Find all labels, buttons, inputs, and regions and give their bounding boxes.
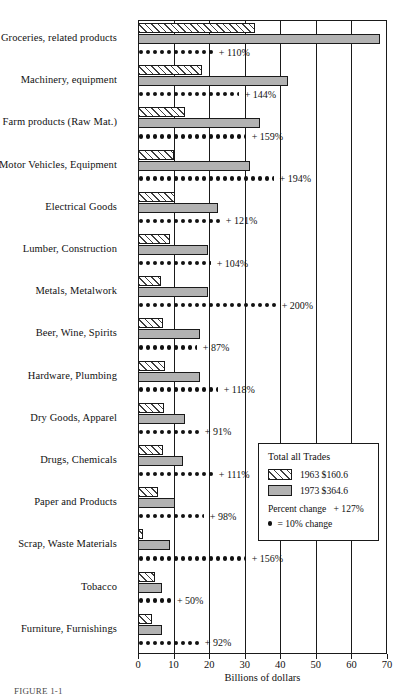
bar-1973 <box>138 540 170 550</box>
change-dot-icon <box>181 176 185 180</box>
change-dot-icon <box>181 387 185 391</box>
bar-1963 <box>138 23 255 33</box>
change-dot-icon <box>139 556 143 560</box>
bar-1963 <box>138 234 170 244</box>
change-dot-icon <box>223 134 227 138</box>
change-dot-icon <box>195 641 199 645</box>
change-dot-icon <box>188 514 192 518</box>
change-dot-icon <box>139 134 143 138</box>
change-dot-icon <box>160 219 164 223</box>
change-dot-icon <box>167 50 171 54</box>
bar-1963 <box>138 150 174 160</box>
change-dot-icon <box>223 176 227 180</box>
change-dot-icon <box>244 303 248 307</box>
bar-chart: Groceries, related products+ 110%Machine… <box>0 0 405 695</box>
legend-dot-key-label: = 10% change <box>277 518 332 529</box>
change-dot-icon <box>160 556 164 560</box>
change-dot-icon <box>174 514 178 518</box>
change-dot-icon <box>230 134 234 138</box>
chart-row: Lumber, Construction+ 104% <box>138 231 387 273</box>
change-dot-icon <box>237 134 241 138</box>
change-dot-icon <box>209 556 213 560</box>
bar-1963 <box>138 107 185 117</box>
change-dot-icon <box>195 430 199 434</box>
change-dot-icon <box>174 134 178 138</box>
category-label: Groceries, related products <box>1 32 117 43</box>
change-dot-icon <box>146 176 150 180</box>
category-label: Hardware, Plumbing <box>28 370 117 381</box>
x-axis-ticks: 010203040506070 <box>138 654 387 660</box>
change-dot-icon <box>153 387 157 391</box>
change-dot-icon <box>146 303 150 307</box>
change-dot-icon <box>139 472 143 476</box>
percent-change-dots: + 98% <box>139 511 236 522</box>
axis-tick-label: 10 <box>168 659 179 670</box>
change-dot-partial-icon <box>216 387 218 391</box>
change-dot-icon <box>209 176 213 180</box>
legend-percent-change-value: + 127% <box>334 503 364 514</box>
change-dot-icon <box>181 514 185 518</box>
axis-tick-label: 70 <box>382 659 393 670</box>
category-label: Tobacco <box>81 581 117 592</box>
change-dot-icon <box>188 641 192 645</box>
change-dot-icon <box>181 219 185 223</box>
change-dot-icon <box>251 176 255 180</box>
change-dot-icon <box>160 50 164 54</box>
percent-change-dots: + 118% <box>139 384 255 395</box>
bar-1963 <box>138 403 164 413</box>
bar-1963 <box>138 614 152 624</box>
change-dot-icon <box>188 50 192 54</box>
change-dot-icon <box>167 514 171 518</box>
category-label: Machinery, equipment <box>21 74 117 85</box>
bar-1973 <box>138 372 200 382</box>
change-dot-icon <box>216 134 220 138</box>
change-dot-icon <box>167 387 171 391</box>
change-dot-icon <box>167 176 171 180</box>
bar-1973 <box>138 456 183 466</box>
bar-1973 <box>138 76 288 86</box>
bar-1963 <box>138 487 158 497</box>
change-dot-icon <box>153 176 157 180</box>
bar-1963 <box>138 318 163 328</box>
percent-change-dots: + 121% <box>139 215 257 226</box>
change-dot-icon <box>188 556 192 560</box>
change-dot-icon <box>146 92 150 96</box>
change-dot-icon <box>153 303 157 307</box>
chart-row: Farm products (Raw Mat.)+ 159% <box>138 104 387 146</box>
change-dot-icon <box>202 134 206 138</box>
change-dot-icon <box>195 472 199 476</box>
bar-1963 <box>138 65 202 75</box>
change-dot-icon <box>160 92 164 96</box>
change-dot-icon <box>139 641 143 645</box>
category-label: Drugs, Chemicals <box>40 454 117 465</box>
change-dot-icon <box>188 345 192 349</box>
change-dot-icon <box>146 219 150 223</box>
percent-change-label: + 104% <box>217 258 248 269</box>
change-dot-icon <box>160 261 164 265</box>
change-dot-icon <box>139 261 143 265</box>
change-dot-icon <box>153 514 157 518</box>
legend-label-1963: 1963 $160.6 <box>300 469 348 480</box>
change-dot-icon <box>153 641 157 645</box>
axis-tick-label: 60 <box>346 659 357 670</box>
chart-row: Tobacco+ 50% <box>138 569 387 611</box>
change-dot-icon <box>202 219 206 223</box>
change-dot-icon <box>153 92 157 96</box>
change-dot-icon <box>188 92 192 96</box>
bar-1973 <box>138 583 162 593</box>
percent-change-dots: + 144% <box>139 89 276 100</box>
change-dot-icon <box>202 50 206 54</box>
change-dot-icon <box>209 387 213 391</box>
bar-1963 <box>138 192 175 202</box>
percent-change-dots: + 110% <box>139 47 250 58</box>
axis-tick-label: 40 <box>275 659 286 670</box>
change-dot-icon <box>209 219 213 223</box>
change-dot-icon <box>167 598 171 602</box>
change-dot-icon <box>167 641 171 645</box>
legend: Total all Trades 1963 $160.6 1973 $364.6… <box>258 443 379 541</box>
change-dot-icon <box>160 430 164 434</box>
chart-row: Furniture, Furnishings+ 92% <box>138 611 387 653</box>
bar-1973 <box>138 34 380 44</box>
change-dot-icon <box>188 176 192 180</box>
change-dot-icon <box>230 176 234 180</box>
